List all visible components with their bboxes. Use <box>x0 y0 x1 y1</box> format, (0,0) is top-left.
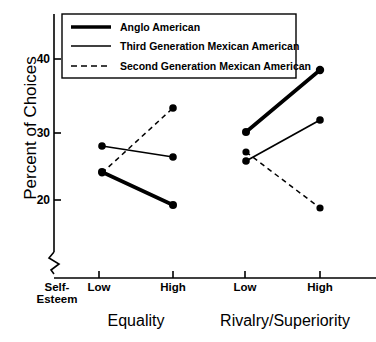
data-point <box>316 66 324 74</box>
series-segment-rivalry <box>246 70 320 132</box>
data-point <box>242 157 250 165</box>
group-label-rivalry-superiority: Rivalry/Superiority <box>207 312 363 330</box>
data-point <box>242 128 250 136</box>
x-tick-label-equality-low: Low <box>69 281 129 293</box>
group-label-equality: Equality <box>86 312 186 330</box>
series-segment-equality <box>102 172 173 205</box>
data-point <box>169 104 177 112</box>
legend-label-third-generation-mexican-american: Third Generation Mexican American <box>120 40 299 52</box>
data-point <box>169 201 177 209</box>
chart-figure: Anglo American Third Generation Mexican … <box>0 0 376 342</box>
data-point <box>242 148 249 155</box>
legend-label-anglo-american: Anglo American <box>120 21 200 33</box>
x-tick-label-rivalry-high: High <box>290 281 350 293</box>
legend-label-second-generation-mexican-american: Second Generation Mexican American <box>120 60 311 72</box>
data-point <box>316 116 324 124</box>
y-tick-label-30: 30 <box>22 126 50 140</box>
series-segment-rivalry <box>246 120 320 161</box>
y-tick-label-20: 20 <box>22 193 50 207</box>
series-third-generation-mexican-american <box>98 116 324 165</box>
series-second-generation-mexican-american <box>99 104 324 211</box>
series-segment-equality <box>102 146 173 157</box>
series-segment-equality <box>102 108 173 173</box>
x-tick-label-rivalry-low: Low <box>215 281 275 293</box>
series-segment-rivalry <box>246 152 320 208</box>
data-point <box>98 142 106 150</box>
data-point <box>316 204 323 211</box>
y-tick-label-40: 40 <box>22 52 50 66</box>
x-tick-label-equality-high: High <box>143 281 203 293</box>
data-point <box>169 153 177 161</box>
data-point <box>98 168 106 176</box>
axis-break-symbol <box>49 252 59 274</box>
x-axis-origin-label-line2: Esteem <box>34 293 80 305</box>
